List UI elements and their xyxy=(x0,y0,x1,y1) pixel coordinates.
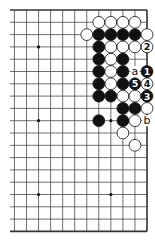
star-point xyxy=(109,119,112,122)
white-stone xyxy=(105,78,117,90)
white-stone xyxy=(117,127,129,139)
white-stone xyxy=(105,53,117,65)
black-stone xyxy=(117,53,129,65)
white-stone xyxy=(129,41,141,53)
black-stone xyxy=(93,90,105,102)
black-stone xyxy=(93,66,105,78)
white-stone xyxy=(129,16,141,28)
white-stone: 4 xyxy=(141,78,153,90)
white-stone: 2 xyxy=(141,41,153,53)
star-point xyxy=(109,193,112,196)
move-number: 4 xyxy=(144,78,151,89)
black-stone: 3 xyxy=(141,90,153,102)
black-stone xyxy=(105,90,117,102)
move-number: 3 xyxy=(144,91,151,102)
go-board-diagram: 21543 ab xyxy=(0,0,155,243)
black-stone xyxy=(117,66,129,78)
black-stone xyxy=(93,53,105,65)
black-stone xyxy=(117,103,129,115)
point-label-a: a xyxy=(130,65,139,78)
white-stone xyxy=(117,90,129,102)
move-number: 5 xyxy=(132,78,139,89)
white-stone xyxy=(105,66,117,78)
white-stone xyxy=(129,139,141,151)
black-stone xyxy=(117,115,129,127)
star-point xyxy=(37,193,40,196)
white-stone xyxy=(105,16,117,28)
black-stone xyxy=(93,115,105,127)
black-stone xyxy=(93,29,105,41)
white-stone xyxy=(141,103,153,115)
svg-text:b: b xyxy=(144,114,151,127)
black-stone: 1 xyxy=(141,66,153,78)
star-point xyxy=(37,119,40,122)
svg-text:a: a xyxy=(132,65,139,78)
black-stone xyxy=(129,29,141,41)
black-stone: 5 xyxy=(129,78,141,90)
black-stone xyxy=(117,29,129,41)
white-stone xyxy=(93,16,105,28)
white-stone xyxy=(129,115,141,127)
white-stone xyxy=(105,41,117,53)
black-stone xyxy=(93,41,105,53)
white-stone xyxy=(117,41,129,53)
black-stone xyxy=(105,29,117,41)
white-stone xyxy=(141,29,153,41)
move-number: 1 xyxy=(144,66,151,77)
black-stone xyxy=(117,78,129,90)
star-point xyxy=(37,45,40,48)
black-stone xyxy=(93,78,105,90)
white-stone xyxy=(117,16,129,28)
white-stone xyxy=(129,90,141,102)
black-stone xyxy=(129,103,141,115)
move-number: 2 xyxy=(144,41,151,52)
white-stone xyxy=(81,29,93,41)
point-label-b: b xyxy=(143,114,152,127)
